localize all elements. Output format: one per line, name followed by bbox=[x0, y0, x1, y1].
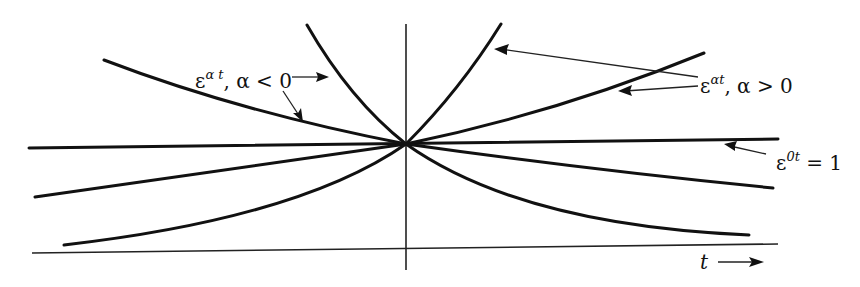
arrowhead-growth-steep bbox=[494, 44, 509, 55]
leader-constant bbox=[730, 146, 766, 154]
leader-growth-steep bbox=[500, 49, 698, 77]
arrowhead-growth-mild bbox=[618, 85, 632, 96]
label-t-axis: t bbox=[700, 252, 708, 272]
label-decay-exponent: α t bbox=[205, 67, 223, 82]
label-growth-base: ε bbox=[700, 74, 710, 98]
label-constant-base: ε bbox=[776, 151, 786, 175]
curve-strong-growth bbox=[64, 24, 501, 245]
label-growth-exponent: αt bbox=[710, 72, 724, 87]
curve-strong-decay bbox=[307, 25, 749, 235]
label-decay: εα t, α < 0 bbox=[195, 68, 292, 91]
arrowhead-constant bbox=[724, 141, 737, 151]
label-constant-condition: = 1 bbox=[800, 151, 842, 175]
label-growth-condition: , α > 0 bbox=[724, 74, 792, 98]
curve-mild-growth bbox=[35, 53, 704, 197]
t-axis bbox=[32, 244, 778, 253]
label-decay-condition: , α < 0 bbox=[224, 69, 292, 93]
label-decay-base: ε bbox=[195, 69, 205, 93]
label-growth: εαt, α > 0 bbox=[700, 73, 793, 96]
leader-growth-mild bbox=[625, 86, 698, 91]
label-constant-exponent: 0t bbox=[786, 149, 800, 164]
t-axis-symbol: t bbox=[700, 250, 708, 274]
label-constant: ε0t = 1 bbox=[776, 150, 842, 173]
exponential-family-diagram bbox=[0, 0, 860, 287]
